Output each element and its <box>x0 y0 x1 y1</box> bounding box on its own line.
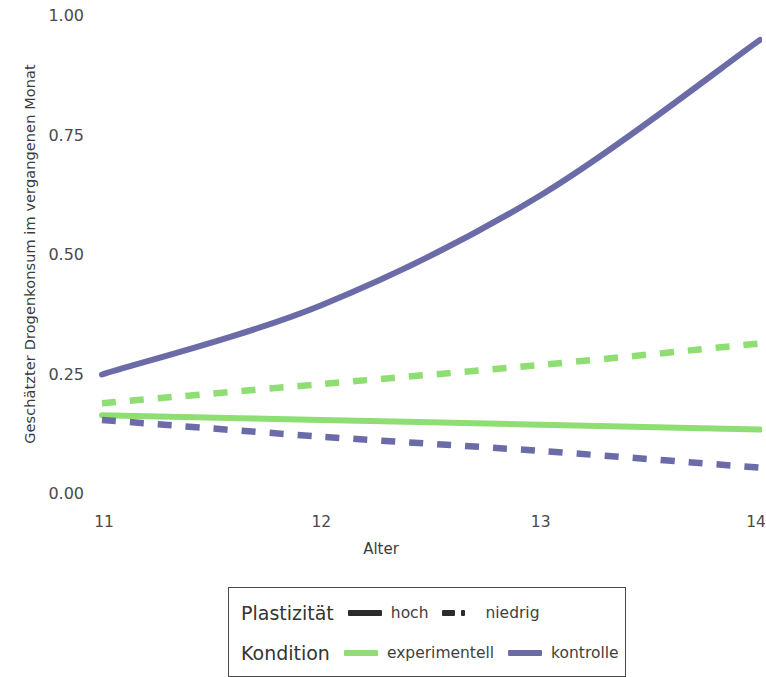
x-tick-label: 12 <box>311 515 331 531</box>
x-tick-label: 11 <box>94 515 114 531</box>
legend-entry-label: kontrolle <box>551 644 618 662</box>
legend-entry-label: hoch <box>391 604 429 622</box>
legend-entry-kontrolle[interactable]: kontrolle <box>508 644 618 662</box>
x-axis-ticks: 11121314 <box>0 515 762 539</box>
x-tick-label: 13 <box>531 515 551 531</box>
legend-swatch-solid-line-icon <box>348 610 382 616</box>
legend-swatch-experimentell-icon <box>344 650 378 656</box>
legend-entry-experimentell[interactable]: experimentell <box>344 644 494 662</box>
x-axis-title: Alter <box>0 540 762 558</box>
legend-group-title: Plastizität <box>241 602 334 624</box>
legend-group-title: Kondition <box>241 642 330 664</box>
x-tick-label: 14 <box>746 515 766 531</box>
plot-area <box>0 0 762 510</box>
legend-entry-niedrig[interactable]: niedrig <box>442 604 539 622</box>
legend: Plastizität hoch niedrig Kondition exper… <box>228 587 626 677</box>
legend-entry-hoch[interactable]: hoch <box>348 604 429 622</box>
legend-swatch-dashed-line-icon <box>442 610 476 616</box>
series-line <box>102 40 760 375</box>
series-line <box>102 343 760 403</box>
legend-row-kondition: Kondition experimentell kontrolle <box>241 633 613 673</box>
plot-lines <box>0 0 762 510</box>
legend-entry-label: experimentell <box>387 644 494 662</box>
legend-entry-label: niedrig <box>485 604 539 622</box>
legend-swatch-kontrolle-icon <box>508 650 542 656</box>
series-line <box>102 415 760 429</box>
legend-row-plastizitaet: Plastizität hoch niedrig <box>241 593 613 633</box>
